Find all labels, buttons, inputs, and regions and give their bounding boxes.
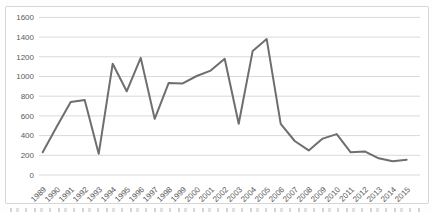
x-tick-label: 2015 bbox=[393, 185, 412, 203]
y-tick-label: 1000 bbox=[16, 72, 34, 81]
chart-screenshot: 0200400600800100012001400160019891990199… bbox=[0, 0, 433, 213]
y-tick-label: 0 bbox=[30, 171, 35, 180]
y-tick-label: 600 bbox=[21, 112, 35, 121]
y-tick-label: 200 bbox=[21, 151, 35, 160]
y-tick-label: 1400 bbox=[16, 33, 34, 42]
line-chart: 0200400600800100012001400160019891990199… bbox=[6, 7, 428, 203]
line-chart-frame: 0200400600800100012001400160019891990199… bbox=[5, 6, 429, 204]
y-tick-label: 1600 bbox=[16, 13, 34, 22]
cutoff-caption-sliver bbox=[10, 208, 420, 212]
y-tick-label: 1200 bbox=[16, 53, 34, 62]
y-tick-label: 800 bbox=[21, 92, 35, 101]
y-tick-label: 400 bbox=[21, 131, 35, 140]
chart-series-line bbox=[43, 39, 407, 161]
